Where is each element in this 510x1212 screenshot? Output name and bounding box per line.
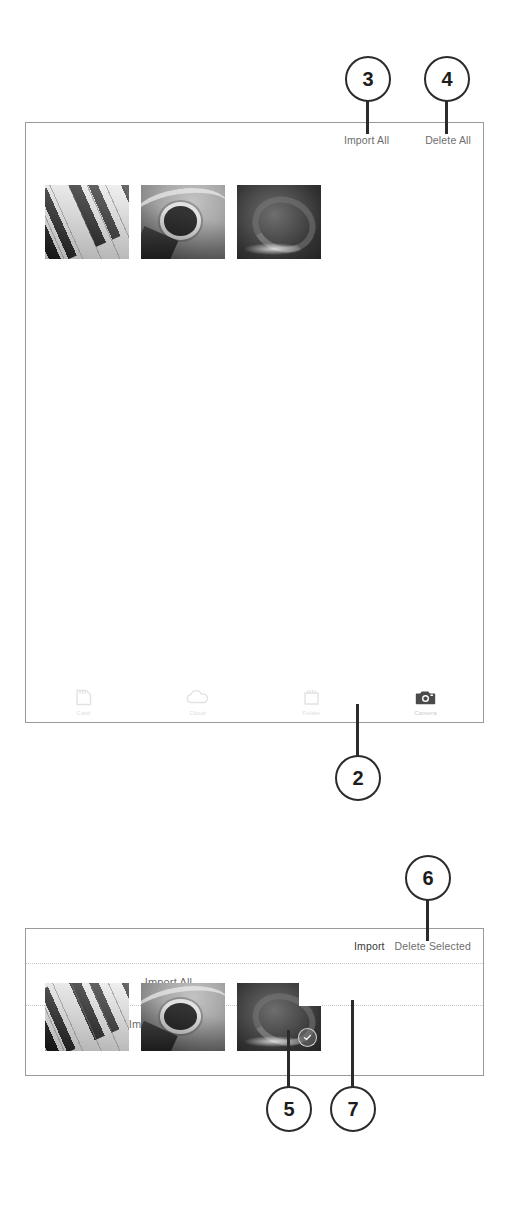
acoustic-guitar-image xyxy=(141,983,225,1051)
thumbnail-acoustic-guitar[interactable] xyxy=(141,983,225,1051)
dark-glint-highlight xyxy=(244,1036,303,1047)
import-all-button[interactable]: Import All xyxy=(344,134,389,146)
bottom-tab-bar: Card Cloud Folder xyxy=(26,687,483,716)
bottom-action-bar: Import Delete Selected xyxy=(26,929,483,963)
callout-leader-6 xyxy=(426,899,429,941)
sd-card-icon xyxy=(74,687,93,707)
dark-glint-highlight xyxy=(244,243,303,255)
tab-folder-label: Folder xyxy=(302,710,320,716)
callout-marker-6: 6 xyxy=(405,855,451,901)
delete-all-button[interactable]: Delete All xyxy=(425,134,471,146)
import-screen-panel: Import All Delete All xyxy=(25,122,484,723)
thumbnail-acoustic-guitar[interactable] xyxy=(141,185,225,259)
import-button[interactable]: Import xyxy=(354,940,385,952)
cloud-icon xyxy=(186,687,209,707)
piano-keys-image xyxy=(45,185,129,259)
thumbnail-dark-closeup-selected[interactable] xyxy=(237,983,321,1051)
acoustic-guitar-image xyxy=(141,185,225,259)
top-action-bar: Import All Delete All xyxy=(26,123,483,157)
camera-icon xyxy=(415,687,436,707)
tab-camera[interactable]: Camera xyxy=(399,687,453,716)
callout-marker-3: 3 xyxy=(345,56,391,102)
delete-selected-button[interactable]: Delete Selected xyxy=(395,940,471,952)
tab-folder[interactable]: Folder xyxy=(285,687,339,716)
piano-keys-image xyxy=(45,983,129,1051)
tab-card[interactable]: Card xyxy=(57,687,111,716)
selected-check-icon[interactable] xyxy=(298,1028,317,1047)
annotated-figure: Import All Delete All xyxy=(0,0,510,1212)
callout-leader-7 xyxy=(351,1000,354,1088)
tab-cloud-label: Cloud xyxy=(189,710,206,716)
callout-marker-2: 2 xyxy=(335,755,381,801)
menu-divider-top xyxy=(26,963,483,964)
callout-leader-4 xyxy=(445,100,448,134)
guitar-shading xyxy=(141,983,225,1051)
callout-leader-5 xyxy=(287,1030,290,1088)
dark-closeup-image xyxy=(237,185,321,259)
thumbnail-grid-selected xyxy=(45,983,321,1051)
thumbnail-grid xyxy=(45,185,321,259)
thumbnail-piano-keys[interactable] xyxy=(45,983,129,1051)
callout-marker-4: 4 xyxy=(424,56,470,102)
tab-camera-label: Camera xyxy=(414,710,437,716)
guitar-shading xyxy=(141,185,225,259)
tab-card-label: Card xyxy=(77,710,91,716)
callout-marker-5: 5 xyxy=(266,1086,312,1132)
folder-icon xyxy=(302,687,321,707)
image-corner-cutout xyxy=(299,983,321,1006)
import-menu-panel: Import Delete Selected Import All Import… xyxy=(25,928,484,1076)
callout-leader-3 xyxy=(366,100,369,134)
callout-marker-7: 7 xyxy=(330,1086,376,1132)
thumbnail-piano-keys[interactable] xyxy=(45,185,129,259)
thumbnail-dark-closeup[interactable] xyxy=(237,185,321,259)
callout-leader-2 xyxy=(356,704,359,757)
tab-cloud[interactable]: Cloud xyxy=(171,687,225,716)
